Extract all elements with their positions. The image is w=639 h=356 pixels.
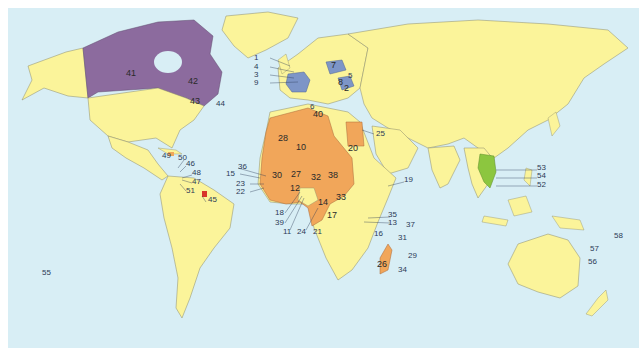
map-label-45: 45 [208,196,217,204]
map-label-41: 41 [126,69,136,78]
map-label-24: 24 [297,228,306,236]
map-label-21: 21 [313,228,322,236]
map-label-13: 13 [388,219,397,227]
map-label-48: 48 [192,169,201,177]
map-label-42: 42 [188,77,198,86]
map-label-16: 16 [374,230,383,238]
map-label-14: 14 [318,198,328,207]
map-label-28: 28 [278,134,288,143]
map-label-49: 49 [162,152,171,160]
map-label-27: 27 [291,170,301,179]
map-label-29: 29 [408,252,417,260]
map-label-17: 17 [327,211,337,220]
map-label-58: 58 [614,232,623,240]
map-label-18: 18 [275,209,284,217]
world-map: 1 4 3 9 7 5 8 2 6 40 41 42 43 44 49 50 4… [8,8,639,348]
map-label-34: 34 [398,266,407,274]
map-label-26: 26 [377,260,387,269]
map-label-44: 44 [216,100,225,108]
map-label-19: 19 [404,176,413,184]
map-label-46: 46 [186,160,195,168]
map-label-12: 12 [290,184,300,193]
map-label-37: 37 [406,221,415,229]
map-label-10: 10 [296,143,306,152]
map-label-51: 51 [186,187,195,195]
map-label-15: 15 [226,170,235,178]
map-label-31: 31 [398,234,407,242]
map-label-11: 11 [283,228,291,236]
map-label-33: 33 [336,193,346,202]
map-label-30: 30 [272,171,282,180]
map-label-32: 32 [311,173,321,182]
map-label-55: 55 [42,269,51,277]
map-label-40: 40 [313,110,323,119]
map-label-38: 38 [328,171,338,180]
map-label-43: 43 [190,97,200,106]
map-label-54: 54 [537,172,546,180]
map-label-5: 5 [348,72,352,80]
map-label-20: 20 [348,144,358,153]
map-label-22: 22 [236,188,245,196]
map-label-7: 7 [331,61,336,70]
map-label-8: 8 [338,78,343,87]
map-label-39: 39 [275,219,284,227]
map-label-47: 47 [192,178,201,186]
map-label-9: 9 [254,79,258,87]
map-label-56: 56 [588,258,597,266]
map-label-36: 36 [238,163,247,171]
map-label-25: 25 [376,130,385,138]
map-label-52: 52 [537,181,546,189]
map-label-2: 2 [344,84,349,93]
map-label-1: 1 [254,54,258,62]
map-label-57: 57 [590,245,599,253]
